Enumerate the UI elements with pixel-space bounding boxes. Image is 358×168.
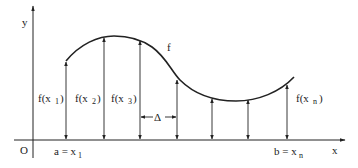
- svg-text:): ): [133, 92, 137, 105]
- right-endpoint-label: b = x n: [274, 145, 303, 160]
- svg-text:): ): [319, 92, 323, 105]
- ordinate-label-n: f(x n ): [296, 92, 323, 106]
- svg-text:b = x: b = x: [274, 145, 297, 157]
- ordinate-label-1: f(x 1 ): [38, 92, 64, 106]
- riemann-sum-diagram: Δ y x O f f(x 1 ) f(x 2 ) f(x 3 ) f(x n …: [0, 0, 358, 168]
- origin-label: O: [20, 144, 28, 156]
- ordinate-label-2: f(x 2 ): [75, 92, 101, 106]
- svg-text:2: 2: [92, 97, 96, 106]
- svg-text:f(x: f(x: [296, 92, 309, 105]
- svg-text:1: 1: [78, 151, 82, 160]
- svg-text:): ): [97, 92, 101, 105]
- svg-text:): ): [60, 92, 64, 105]
- svg-text:n: n: [313, 97, 317, 106]
- svg-text:f(x: f(x: [75, 92, 88, 105]
- svg-text:f(x: f(x: [111, 92, 124, 105]
- delta-label: Δ: [154, 111, 161, 123]
- svg-text:n: n: [299, 151, 303, 160]
- ordinate-arrows: [66, 38, 287, 139]
- curve-label: f: [167, 41, 171, 53]
- axes: [14, 6, 345, 158]
- svg-text:3: 3: [128, 97, 132, 106]
- svg-text:a = x: a = x: [54, 145, 77, 157]
- ordinate-label-3: f(x 3 ): [111, 92, 137, 106]
- y-axis-label: y: [22, 16, 28, 28]
- x-axis-label: x: [332, 144, 338, 156]
- svg-text:f(x: f(x: [38, 92, 51, 105]
- svg-text:1: 1: [55, 97, 59, 106]
- left-endpoint-label: a = x 1: [54, 145, 82, 160]
